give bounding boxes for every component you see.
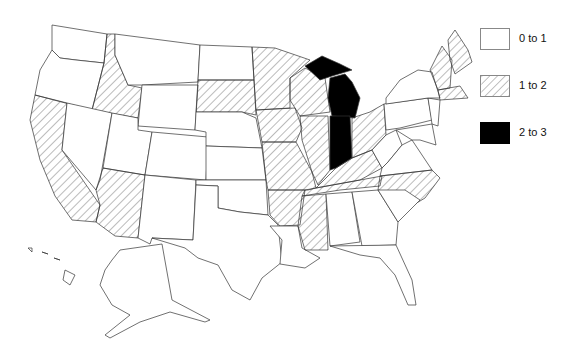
- state-arizona: [96, 168, 145, 238]
- legend-item-1-to-2: 1 to 2: [480, 75, 564, 101]
- state-washington: [52, 25, 107, 63]
- state-south-dakota: [196, 80, 256, 115]
- legend-item-2-to-3: 2 to 3: [480, 122, 564, 148]
- swatch-hatched-icon: [480, 75, 510, 97]
- legend-item-0-to-1: 0 to 1: [480, 28, 564, 54]
- state-michigan: [328, 74, 360, 118]
- state-new-mexico: [138, 175, 196, 244]
- state-kansas: [206, 146, 266, 180]
- swatch-empty-icon: [480, 28, 510, 50]
- swatch-solid-icon: [480, 122, 510, 144]
- us-choropleth-map: [0, 0, 564, 360]
- legend-label: 2 to 3: [519, 126, 547, 138]
- state-wyoming: [138, 85, 198, 130]
- state-new-jersey: [428, 98, 440, 126]
- state-hawaii: [28, 248, 75, 285]
- state-florida: [330, 245, 416, 305]
- state-iowa: [256, 108, 302, 142]
- state-alaska: [100, 244, 210, 338]
- state-mississippi: [298, 194, 328, 250]
- legend-label: 0 to 1: [519, 32, 547, 44]
- state-north-dakota: [198, 45, 254, 80]
- state-colorado: [145, 132, 208, 180]
- state-montana: [115, 34, 200, 85]
- legend-label: 1 to 2: [519, 79, 547, 91]
